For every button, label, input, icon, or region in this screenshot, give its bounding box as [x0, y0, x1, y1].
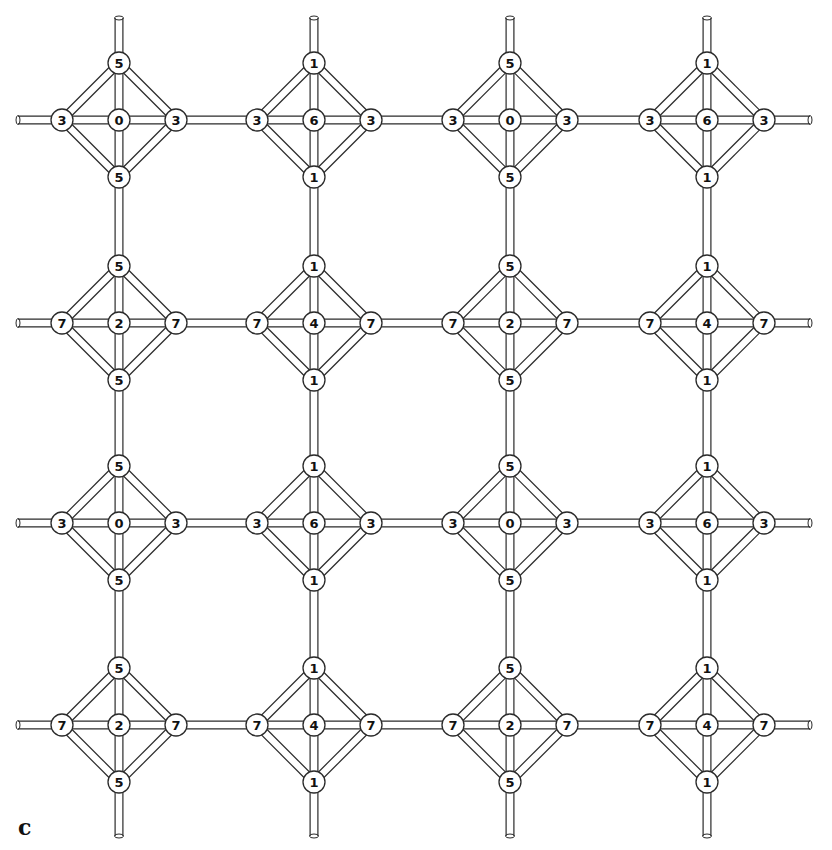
node-bottom: 1 — [696, 369, 718, 391]
node-left: 7 — [51, 312, 73, 334]
node-label: 5 — [114, 170, 123, 185]
node-label: 7 — [448, 316, 457, 331]
diamond-edge-r3c4 — [650, 523, 707, 580]
node-left: 3 — [639, 512, 661, 534]
node-label: 1 — [309, 459, 318, 474]
node-label: 6 — [702, 113, 711, 128]
node-top: 1 — [696, 455, 718, 477]
node-center: 0 — [499, 109, 521, 131]
diamond-edge-r3c1 — [62, 466, 119, 523]
diamond-edge-r4c2 — [257, 725, 314, 782]
node-right: 7 — [165, 312, 187, 334]
node-label: 7 — [252, 316, 261, 331]
cluster-r3c3: 55330 — [442, 455, 578, 591]
node-right: 7 — [753, 714, 775, 736]
diamond-edge-r4c3 — [510, 725, 567, 782]
diamond-edge-r3c3 — [453, 466, 510, 523]
diamond-edge-r4c1 — [119, 725, 176, 782]
node-label: 5 — [505, 56, 514, 71]
diamond-edge-r1c4 — [650, 63, 707, 120]
node-top: 5 — [499, 657, 521, 679]
node-bottom: 5 — [499, 166, 521, 188]
node-label: 3 — [366, 113, 375, 128]
node-center: 4 — [303, 714, 325, 736]
node-bottom: 1 — [303, 166, 325, 188]
node-top: 5 — [499, 455, 521, 477]
node-bottom: 5 — [499, 771, 521, 793]
node-label: 1 — [702, 56, 711, 71]
node-bottom: 5 — [499, 569, 521, 591]
node-center: 6 — [696, 109, 718, 131]
node-right: 3 — [360, 109, 382, 131]
node-label: 7 — [759, 316, 768, 331]
lattice-diagram: 5533011336553301133655772117745577211774… — [0, 0, 832, 850]
cluster-r2c4: 11774 — [639, 255, 775, 391]
node-right: 7 — [165, 714, 187, 736]
node-bottom: 5 — [499, 369, 521, 391]
node-label: 3 — [562, 516, 571, 531]
node-label: 3 — [645, 516, 654, 531]
node-bottom: 1 — [696, 166, 718, 188]
node-label: 3 — [562, 113, 571, 128]
node-center: 6 — [303, 109, 325, 131]
diamond-edge-r2c3 — [453, 323, 510, 380]
node-label: 7 — [171, 316, 180, 331]
node-label: 1 — [702, 459, 711, 474]
node-label: 6 — [309, 113, 318, 128]
node-label: 1 — [309, 573, 318, 588]
node-top: 5 — [108, 657, 130, 679]
node-right: 3 — [165, 109, 187, 131]
node-label: 7 — [57, 316, 66, 331]
diamond-edge-r2c4 — [707, 323, 764, 380]
node-top: 1 — [696, 255, 718, 277]
node-top: 5 — [499, 255, 521, 277]
diamond-edge-r1c3 — [453, 63, 510, 120]
diamond-edge-r3c4 — [707, 523, 764, 580]
diamond-edge-r1c2 — [314, 120, 371, 177]
diamond-edge-r4c2 — [257, 668, 314, 725]
node-left: 3 — [442, 109, 464, 131]
node-label: 7 — [366, 316, 375, 331]
node-top: 5 — [108, 52, 130, 74]
panel-label: c — [18, 814, 31, 840]
node-label: 2 — [505, 718, 514, 733]
node-label: 1 — [309, 259, 318, 274]
node-top: 5 — [499, 52, 521, 74]
node-left: 3 — [51, 512, 73, 534]
node-center: 2 — [108, 312, 130, 334]
node-label: 3 — [57, 113, 66, 128]
node-right: 3 — [556, 109, 578, 131]
node-label: 5 — [505, 373, 514, 388]
node-right: 3 — [360, 512, 382, 534]
diamond-edge-r4c4 — [650, 725, 707, 782]
diamond-edge-r2c1 — [119, 323, 176, 380]
cluster-r2c1: 55772 — [51, 255, 187, 391]
node-center: 4 — [303, 312, 325, 334]
node-left: 7 — [51, 714, 73, 736]
cluster-r4c3: 55772 — [442, 657, 578, 793]
node-label: 3 — [759, 113, 768, 128]
node-label: 4 — [702, 718, 711, 733]
diamond-edge-r2c1 — [119, 266, 176, 323]
node-bottom: 5 — [108, 771, 130, 793]
diamond-edge-r4c1 — [62, 725, 119, 782]
node-label: 1 — [702, 170, 711, 185]
diamond-edge-r2c3 — [510, 323, 567, 380]
node-label: 1 — [702, 661, 711, 676]
node-label: 3 — [57, 516, 66, 531]
cluster-r1c2: 11336 — [246, 52, 382, 188]
diamond-edge-r1c2 — [314, 63, 371, 120]
diamond-edge-r1c4 — [707, 120, 764, 177]
node-label: 2 — [114, 718, 123, 733]
diamond-edge-r1c3 — [510, 63, 567, 120]
node-label: 5 — [505, 775, 514, 790]
node-label: 7 — [645, 316, 654, 331]
diamond-edge-r1c1 — [62, 120, 119, 177]
diamond-edge-r3c3 — [510, 466, 567, 523]
node-top: 1 — [696, 52, 718, 74]
node-center: 2 — [499, 714, 521, 736]
node-label: 5 — [114, 373, 123, 388]
diamond-edge-r3c2 — [257, 523, 314, 580]
diamond-edge-r4c2 — [314, 725, 371, 782]
node-top: 1 — [303, 657, 325, 679]
